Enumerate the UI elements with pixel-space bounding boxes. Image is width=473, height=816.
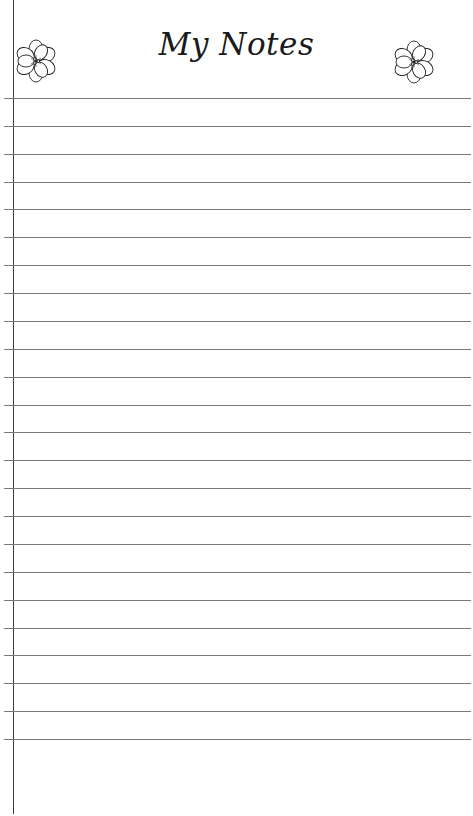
ruled-line	[4, 488, 471, 489]
ruled-line	[4, 600, 471, 601]
ruled-line	[4, 182, 471, 183]
ruled-line	[4, 349, 471, 350]
ruled-line	[4, 209, 471, 210]
ruled-line	[4, 572, 471, 573]
ruled-line	[4, 126, 471, 127]
ruled-line	[4, 154, 471, 155]
ruled-lines	[0, 0, 473, 816]
ruled-line	[4, 460, 471, 461]
ruled-line	[4, 237, 471, 238]
ruled-line	[4, 405, 471, 406]
ruled-line	[4, 628, 471, 629]
ruled-line	[4, 293, 471, 294]
ruled-line	[4, 265, 471, 266]
ruled-line	[4, 377, 471, 378]
ruled-line	[4, 655, 471, 656]
ruled-line	[4, 739, 471, 740]
ruled-line	[4, 683, 471, 684]
ruled-line	[4, 711, 471, 712]
ruled-line	[4, 516, 471, 517]
ruled-line	[4, 544, 471, 545]
ruled-line	[4, 432, 471, 433]
ruled-line	[4, 321, 471, 322]
notepad-page: My Notes	[0, 0, 473, 816]
ruled-line	[4, 98, 471, 99]
